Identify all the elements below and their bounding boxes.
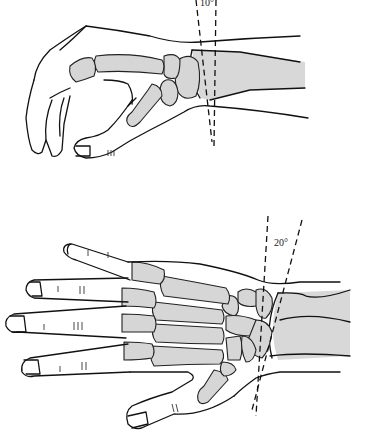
finger-index bbox=[64, 244, 130, 280]
forearm-bones-dorsal bbox=[273, 290, 350, 360]
angle-label-10: 10° bbox=[200, 0, 214, 8]
dorsal-view-panel: 20° bbox=[6, 216, 350, 429]
thumb-metacarpal-lateral bbox=[127, 84, 162, 127]
finger-ring bbox=[6, 306, 126, 338]
hand-wrist-diagram: 10° bbox=[0, 0, 370, 441]
lateral-view-panel: 10° bbox=[26, 0, 308, 158]
metacarpal-lateral bbox=[94, 55, 164, 74]
radius-lateral bbox=[192, 50, 305, 100]
phalanx-lateral bbox=[70, 58, 96, 82]
carpal-bone bbox=[160, 80, 178, 106]
carpal-bone bbox=[164, 55, 180, 79]
angle-label-20: 20° bbox=[274, 237, 288, 248]
